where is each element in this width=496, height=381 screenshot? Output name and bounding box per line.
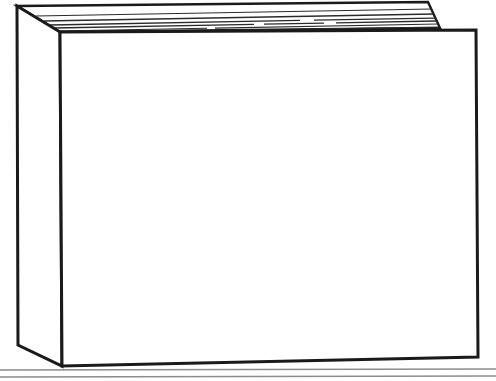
book-line-drawing (0, 0, 496, 381)
illustration-canvas: A line drawing of a closed hardcover boo… (0, 0, 496, 381)
surface-line-2 (0, 376, 496, 377)
book-spine (17, 6, 62, 366)
surface-line-1 (0, 369, 496, 370)
book-front-cover (60, 30, 478, 366)
